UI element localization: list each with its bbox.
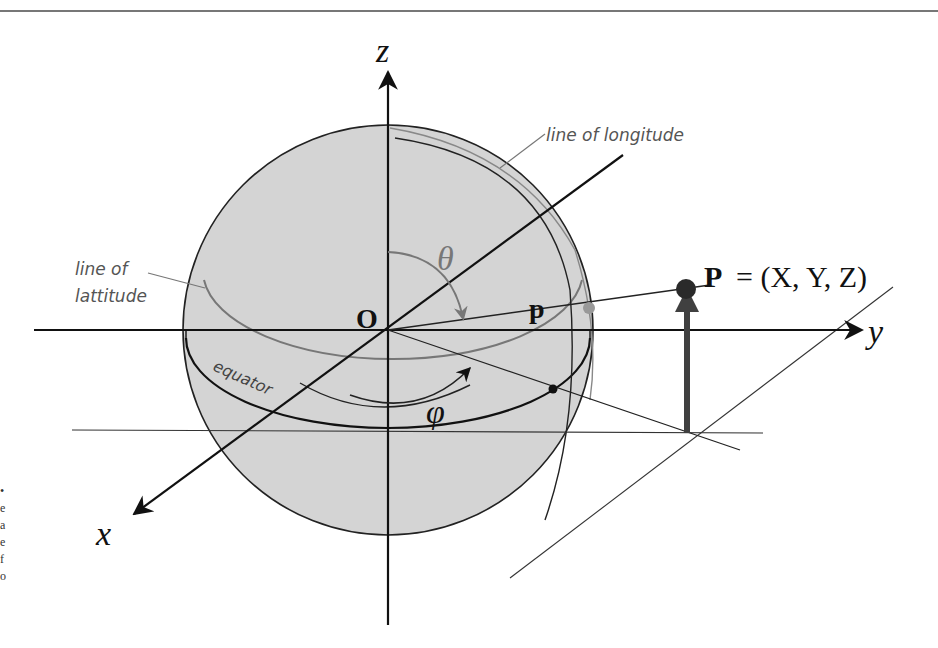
margin-glyphs: • e a e f o	[0, 484, 6, 583]
phi-label: φ	[426, 393, 445, 430]
projected-point-marker	[583, 302, 595, 314]
theta-label: θ	[437, 240, 454, 277]
projected-point-label: p	[529, 293, 545, 324]
longitude-leader	[500, 134, 545, 168]
origin-label: O	[356, 303, 378, 334]
z-axis-label: z	[375, 32, 389, 69]
margin-glyph: a	[0, 518, 6, 532]
y-axis-label: y	[865, 313, 884, 350]
margin-glyph: e	[0, 535, 5, 549]
latitude-label-line2: lattitude	[75, 286, 147, 306]
point-P-marker	[676, 279, 696, 299]
margin-glyph: •	[0, 484, 4, 498]
longitude-label: line of longitude	[546, 125, 684, 145]
margin-glyph: e	[0, 501, 5, 515]
latitude-label-line1: line of	[75, 259, 130, 279]
point-P-label: P	[704, 260, 722, 293]
margin-glyph: o	[0, 569, 6, 583]
margin-glyph: f	[0, 552, 4, 566]
equator-point	[549, 385, 558, 394]
x-axis-label: x	[95, 515, 111, 552]
point-P-coordinates: = (X, Y, Z)	[736, 260, 867, 294]
spherical-coordinates-diagram: z y x O θ φ p P = (X, Y, Z) line of long…	[0, 0, 938, 648]
